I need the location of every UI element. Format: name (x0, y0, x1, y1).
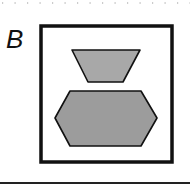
shape-diagram (0, 0, 190, 186)
bottom-separator (0, 182, 190, 184)
hexagon-shape (55, 91, 157, 146)
